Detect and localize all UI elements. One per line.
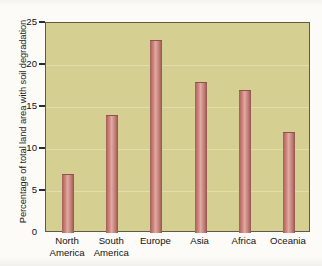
gridline xyxy=(46,149,309,150)
x-axis-label-line1: Asia xyxy=(190,235,209,246)
x-axis-label-line2: America xyxy=(81,247,141,259)
x-axis-label-line1: Africa xyxy=(231,235,256,246)
y-axis-tick-label: 5 xyxy=(11,185,37,195)
gridline xyxy=(46,191,309,192)
bar-north-america xyxy=(62,174,74,233)
x-axis-label-line1: South xyxy=(99,235,124,246)
gridline xyxy=(46,107,309,108)
x-axis-label-oceania: Oceania xyxy=(258,235,318,247)
bar-south-america xyxy=(106,115,118,233)
bar-europe xyxy=(150,40,162,233)
y-axis-tick-label: 15 xyxy=(11,101,37,111)
x-axis-label-line1: Europe xyxy=(140,235,171,246)
x-axis-label-line1: Oceania xyxy=(270,235,306,246)
x-axis-label-line1: North xyxy=(55,235,78,246)
gridline xyxy=(46,65,309,66)
plot-area xyxy=(45,22,310,232)
y-axis-title: Percentage of total land area with soil … xyxy=(17,4,28,240)
bar-asia xyxy=(195,82,207,233)
bar-africa xyxy=(239,90,251,233)
bar-chart-figure: Percentage of total land area with soil … xyxy=(0,0,322,266)
bar-oceania xyxy=(283,132,295,233)
y-axis-tick-label: 20 xyxy=(11,59,37,69)
y-axis-tick-label: 10 xyxy=(11,143,37,153)
y-axis-tick-label: 25 xyxy=(11,17,37,27)
y-axis-tick-label: 0 xyxy=(11,227,37,237)
